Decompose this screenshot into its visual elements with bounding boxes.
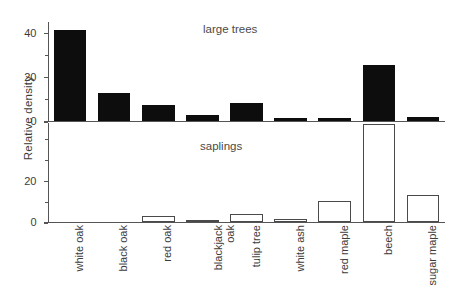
bar-slot	[186, 21, 219, 121]
bar-slot	[407, 122, 440, 222]
y-tick-label: 20	[24, 71, 36, 82]
bar-slot	[363, 122, 396, 222]
x-tick-label: white oak	[74, 225, 86, 271]
bar-slot	[142, 122, 175, 222]
x-tick-label: red maple	[339, 225, 351, 274]
panel-large-trees: large trees 02040	[48, 22, 445, 122]
bar	[274, 118, 307, 121]
bar	[230, 214, 263, 222]
bar	[54, 30, 87, 121]
bar-slot	[186, 122, 219, 222]
bar	[318, 118, 351, 121]
x-tick-label: white ash	[295, 225, 307, 271]
bar-slot	[407, 21, 440, 121]
y-tick-label: 20	[24, 175, 36, 186]
bar-slot	[54, 122, 87, 222]
bar-slot	[54, 21, 87, 121]
bar	[363, 65, 396, 121]
y-tick-label: 0	[30, 217, 36, 228]
x-axis-tick-labels: white oakblack oakred oakblackjackoaktul…	[48, 225, 445, 303]
bar-slot	[274, 21, 307, 121]
bar	[142, 216, 175, 222]
bar	[363, 124, 396, 222]
bar	[274, 219, 307, 222]
bar	[186, 220, 219, 222]
x-tick-label: blackjackoak	[213, 225, 237, 270]
y-tick-label: 40	[24, 27, 36, 38]
x-tick-label: beech	[383, 225, 395, 255]
bar	[230, 103, 263, 121]
bar-slot	[230, 122, 263, 222]
bar	[142, 105, 175, 121]
x-tick-label: red oak	[162, 225, 174, 262]
bar-slot	[363, 21, 396, 121]
bar	[318, 201, 351, 222]
x-tick-label: sugar maple	[427, 225, 439, 286]
panel-saplings: saplings 020	[48, 123, 445, 223]
bar-slot	[98, 21, 131, 121]
y-tick-label: 0	[30, 116, 36, 127]
bar	[186, 115, 219, 121]
x-tick-label: tulip tree	[251, 225, 263, 267]
bar	[407, 117, 440, 121]
y-tick-major: 0	[44, 222, 49, 223]
bar-group-saplings	[48, 123, 445, 222]
bar-slot	[142, 21, 175, 121]
bar-slot	[98, 122, 131, 222]
bar-slot	[230, 21, 263, 121]
x-tick-label: black oak	[118, 225, 130, 271]
bar	[407, 195, 440, 222]
bar-slot	[318, 21, 351, 121]
bar-slot	[274, 122, 307, 222]
bar-group-large-trees	[48, 22, 445, 121]
bar-slot	[318, 122, 351, 222]
bar	[98, 93, 131, 121]
figure-bar-chart-relative-density: Relative density large trees 02040 sapli…	[0, 0, 453, 303]
